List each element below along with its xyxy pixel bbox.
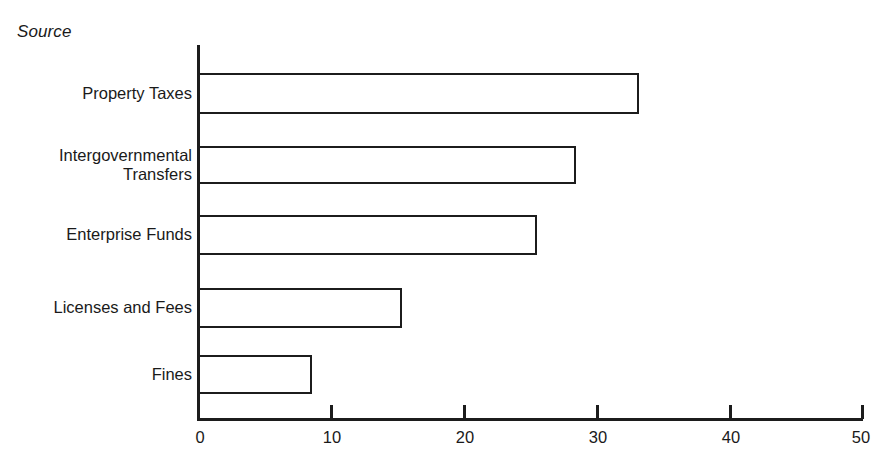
x-tick-label-50: 50 (852, 428, 870, 447)
bar-property-taxes[interactable] (198, 73, 639, 114)
bar-licenses-and-fees[interactable] (198, 288, 402, 328)
category-label-enterprise-funds: Enterprise Funds (66, 225, 192, 244)
category-label-intergovernmental-transfers: Intergovernmental Transfers (59, 146, 192, 184)
x-tick-label-40: 40 (722, 428, 740, 447)
bar-enterprise-funds[interactable] (198, 215, 537, 255)
bar-chart: Source Property Taxes Intergovernmental … (0, 0, 879, 476)
x-tick-label-10: 10 (323, 428, 341, 447)
bar-fines[interactable] (198, 355, 312, 394)
x-tick-label-20: 20 (456, 428, 474, 447)
bar-intergovernmental-transfers[interactable] (198, 146, 576, 184)
category-label-property-taxes: Property Taxes (82, 84, 192, 103)
category-label-licenses-and-fees: Licenses and Fees (53, 298, 192, 317)
category-label-fines: Fines (152, 365, 192, 384)
x-tick-label-30: 30 (589, 428, 607, 447)
x-tick-label-0: 0 (195, 428, 204, 447)
